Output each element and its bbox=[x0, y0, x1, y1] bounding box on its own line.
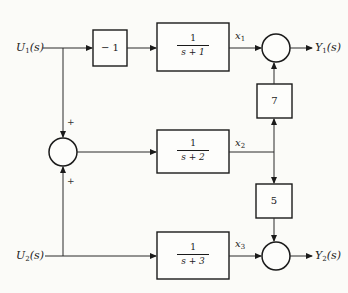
output-label-y2: Y2(s) bbox=[315, 250, 341, 263]
output-label-y1: Y1(s) bbox=[315, 42, 341, 55]
input-label-u2: U2(s) bbox=[16, 250, 44, 263]
gain-neg1-text: − 1 bbox=[93, 43, 127, 53]
tf2-denominator: s + 2 bbox=[177, 151, 209, 162]
plus-sign-bottom: + bbox=[67, 177, 75, 186]
state-label-x2: x2 bbox=[235, 138, 245, 150]
tf3-fraction: 1 s + 3 bbox=[177, 243, 209, 266]
summing-junction-y2 bbox=[262, 242, 290, 270]
state-label-x3: x3 bbox=[235, 239, 245, 251]
tf2-fraction: 1 s + 2 bbox=[177, 139, 209, 162]
block-diagram-canvas bbox=[0, 0, 348, 293]
input-label-u1: U1(s) bbox=[16, 42, 44, 55]
tf1-fraction: 1 s + 1 bbox=[177, 34, 209, 57]
tf1-denominator: s + 1 bbox=[177, 46, 209, 57]
summing-junction-mid bbox=[49, 138, 77, 166]
tf3-numerator: 1 bbox=[177, 243, 209, 255]
gain7-text: 7 bbox=[257, 96, 292, 106]
tf3-denominator: s + 3 bbox=[177, 255, 209, 266]
gain5-text: 5 bbox=[256, 196, 292, 206]
tf1-numerator: 1 bbox=[177, 34, 209, 46]
tf2-numerator: 1 bbox=[177, 139, 209, 151]
plus-sign-top: + bbox=[67, 118, 75, 127]
summing-junction-y1 bbox=[262, 34, 290, 62]
state-label-x1: x1 bbox=[235, 31, 245, 43]
